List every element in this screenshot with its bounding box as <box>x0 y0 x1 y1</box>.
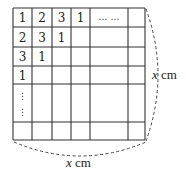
bottom-label-unit: cm <box>72 155 91 170</box>
grid-cell-number: 3 <box>58 11 66 25</box>
grid-cell-number: 1 <box>19 69 27 83</box>
bottom-dimension-arc <box>14 142 146 156</box>
horizontal-ellipsis: ⋯ ⋯ <box>99 14 120 24</box>
right-dimension-label: x cm <box>151 67 177 82</box>
right-label-unit: cm <box>158 67 177 82</box>
vertical-ellipsis: ⋮ <box>18 107 27 117</box>
vertical-ellipsis: ⋮ <box>18 91 27 101</box>
grid-lines <box>13 8 145 140</box>
grid-cell-number: 1 <box>58 31 66 45</box>
grid-cell-number: 2 <box>38 11 46 25</box>
grid-cell-number: 3 <box>19 50 27 64</box>
grid-cell-number: 1 <box>77 11 85 25</box>
grid-cell-number: 1 <box>19 11 27 25</box>
grid-diagram: 1231⋯ ⋯231311⋮⋮ x cm x cm <box>0 0 186 179</box>
bottom-dimension-label: x cm <box>65 155 91 170</box>
grid-cell-number: 3 <box>38 31 46 45</box>
grid-cell-number: 1 <box>38 50 46 64</box>
grid-cell-number: 2 <box>19 31 27 45</box>
